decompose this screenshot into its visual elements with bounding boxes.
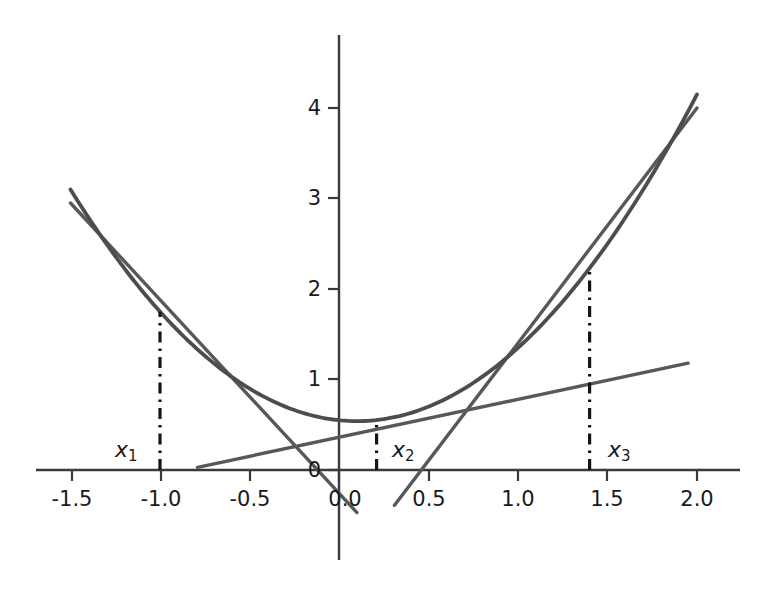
ytick-label-zero: 0	[297, 458, 321, 482]
xtick-label: 0.5	[412, 487, 445, 511]
annotation-x1-sub: 1	[128, 447, 138, 465]
annotation-x2-text: x	[392, 437, 405, 462]
annotation-x3-text: x	[608, 437, 621, 462]
annotation-x1-text: x	[115, 437, 128, 462]
ytick-label: 2	[297, 277, 321, 301]
xtick-label: -0.5	[230, 487, 271, 511]
ytick-label: 3	[297, 186, 321, 210]
xtick-label: -1.0	[141, 487, 182, 511]
annotation-x1: x1	[115, 437, 138, 465]
parabola-curve-main	[71, 94, 698, 421]
ytick-label: 4	[297, 96, 321, 120]
xtick-label: -1.5	[52, 487, 93, 511]
ytick-label: 1	[297, 367, 321, 391]
plot-area	[0, 0, 769, 597]
annotation-x2: x2	[392, 437, 415, 465]
xtick-label: 2.0	[680, 487, 713, 511]
annotation-x3: x3	[608, 437, 631, 465]
tangent-line-x3	[394, 108, 697, 505]
xtick-label: 1.0	[501, 487, 534, 511]
annotation-x3-sub: 3	[621, 447, 631, 465]
x-axis-ticks	[72, 470, 697, 481]
y-axis-ticks	[328, 108, 339, 470]
figure-canvas: -1.5 -1.0 -0.5 0.0 0.5 1.0 1.5 2.0 0 1 2…	[0, 0, 769, 597]
xtick-label: 1.5	[590, 487, 623, 511]
xtick-label: 0.0	[328, 487, 361, 511]
annotation-x2-sub: 2	[405, 447, 415, 465]
